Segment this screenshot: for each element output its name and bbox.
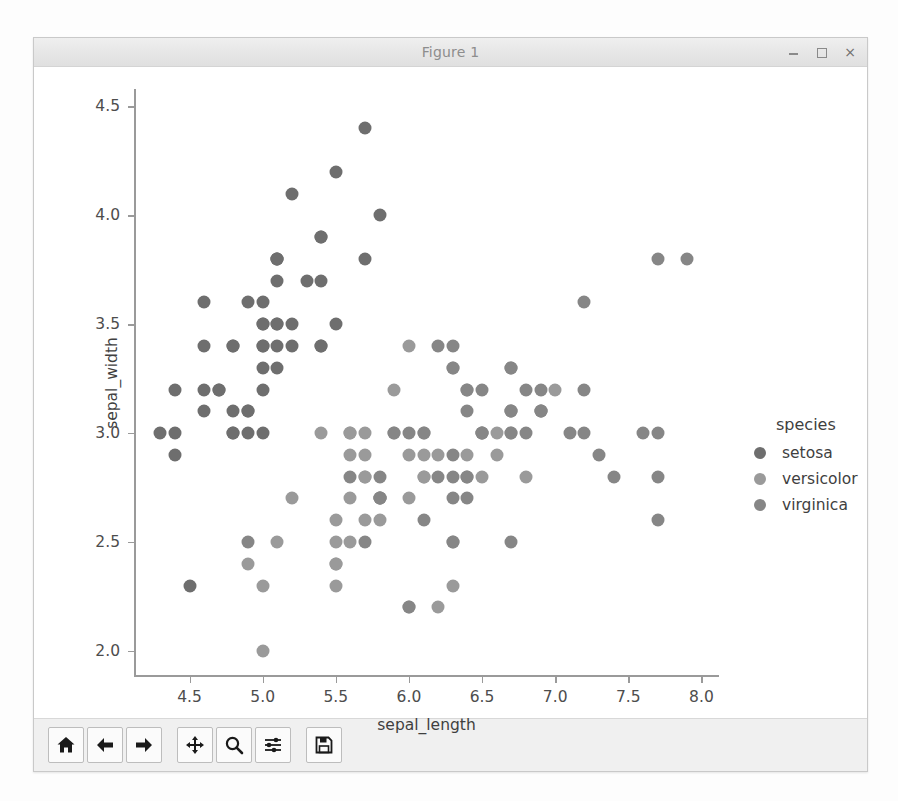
scatter-point (461, 383, 474, 396)
y-tick-label: 4.0 (95, 206, 120, 224)
legend-entries: setosaversicolorvirginica (734, 440, 858, 518)
scatter-point (373, 470, 386, 483)
forward-button[interactable] (126, 727, 162, 763)
scatter-point (476, 470, 489, 483)
pan-button[interactable] (177, 727, 213, 763)
scatter-point (461, 492, 474, 505)
scatter-point (578, 427, 591, 440)
arrow-left-icon (95, 735, 115, 755)
x-axis-spine (134, 675, 719, 677)
scatter-point (402, 492, 415, 505)
scatter-point (329, 557, 342, 570)
scatter-point (198, 296, 211, 309)
scatter-point (329, 514, 342, 527)
y-tick (128, 542, 134, 543)
scatter-point (183, 579, 196, 592)
scatter-point (417, 427, 430, 440)
y-tick-label: 2.0 (95, 642, 120, 660)
scatter-point (446, 492, 459, 505)
window-title: Figure 1 (422, 44, 480, 60)
x-tick (263, 677, 264, 683)
move-cross-icon (185, 735, 205, 755)
save-button[interactable] (306, 727, 342, 763)
scatter-point (417, 448, 430, 461)
scatter-point (168, 448, 181, 461)
legend-item-virginica: virginica (734, 492, 858, 518)
window-controls: × (787, 38, 857, 66)
magnifier-icon (224, 735, 244, 755)
scatter-point (359, 252, 372, 265)
scatter-point (417, 470, 430, 483)
scatter-point (402, 601, 415, 614)
scatter-point (549, 383, 562, 396)
close-button[interactable]: × (843, 45, 857, 59)
scatter-point (242, 296, 255, 309)
y-tick (128, 106, 134, 107)
scatter-point (285, 318, 298, 331)
legend-title: species (776, 415, 858, 434)
x-tick-label: 7.0 (543, 688, 568, 706)
x-tick (336, 677, 337, 683)
scatter-point (198, 339, 211, 352)
x-tick (409, 677, 410, 683)
scatter-point (490, 448, 503, 461)
scatter-point (168, 427, 181, 440)
scatter-point (388, 383, 401, 396)
x-tick-label: 7.5 (616, 688, 641, 706)
configure-subplots-button[interactable] (255, 727, 291, 763)
x-tick (628, 677, 629, 683)
window-titlebar[interactable]: Figure 1 × (34, 38, 867, 67)
scatter-point (476, 427, 489, 440)
scatter-point (607, 470, 620, 483)
scatter-point (227, 339, 240, 352)
scatter-point (446, 470, 459, 483)
home-button[interactable] (48, 727, 84, 763)
scatter-point (271, 535, 284, 548)
minimize-button[interactable] (787, 45, 801, 59)
scatter-point (300, 274, 313, 287)
scatter-point (359, 448, 372, 461)
y-tick (128, 324, 134, 325)
scatter-point (446, 535, 459, 548)
scatter-axes: 4.55.05.56.06.57.07.58.0 2.02.53.03.54.0… (134, 89, 719, 677)
scatter-point (256, 644, 269, 657)
arrow-right-icon (134, 735, 154, 755)
scatter-point (373, 514, 386, 527)
scatter-point (402, 427, 415, 440)
scatter-point (432, 601, 445, 614)
scatter-point (432, 470, 445, 483)
scatter-point (680, 252, 693, 265)
scatter-point (359, 427, 372, 440)
scatter-point (461, 448, 474, 461)
scatter-point (168, 383, 181, 396)
scatter-point (446, 339, 459, 352)
scatter-point (271, 361, 284, 374)
x-tick-label: 6.5 (470, 688, 495, 706)
x-tick-label: 4.5 (177, 688, 202, 706)
scatter-point (446, 448, 459, 461)
scatter-point (198, 405, 211, 418)
x-tick (190, 677, 191, 683)
legend-marker-icon (754, 499, 766, 511)
y-tick (128, 215, 134, 216)
x-tick (555, 677, 556, 683)
toolbar-separator-1 (165, 745, 177, 746)
scatter-point (242, 535, 255, 548)
scatter-point (242, 405, 255, 418)
back-button[interactable] (87, 727, 123, 763)
scatter-point (402, 448, 415, 461)
scatter-point (651, 252, 664, 265)
scatter-point (359, 122, 372, 135)
x-tick-label: 5.0 (250, 688, 275, 706)
scatter-point (256, 579, 269, 592)
figure-canvas[interactable]: 4.55.05.56.06.57.07.58.0 2.02.53.03.54.0… (34, 67, 867, 719)
scatter-point (388, 427, 401, 440)
maximize-button[interactable] (815, 45, 829, 59)
scatter-point (256, 339, 269, 352)
x-tick-label: 6.0 (397, 688, 422, 706)
x-axis-label: sepal_length (377, 716, 475, 734)
zoom-button[interactable] (216, 727, 252, 763)
scatter-point (651, 427, 664, 440)
legend-item-versicolor: versicolor (734, 466, 858, 492)
scatter-point (534, 405, 547, 418)
